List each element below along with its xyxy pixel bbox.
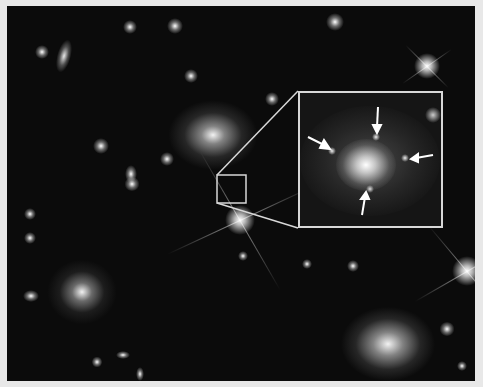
connector-line-top <box>217 91 298 175</box>
callout-lines <box>7 6 475 381</box>
connector-line-bottom <box>217 203 298 228</box>
galaxy-cluster-image <box>7 6 475 381</box>
highlight-box <box>217 175 246 203</box>
